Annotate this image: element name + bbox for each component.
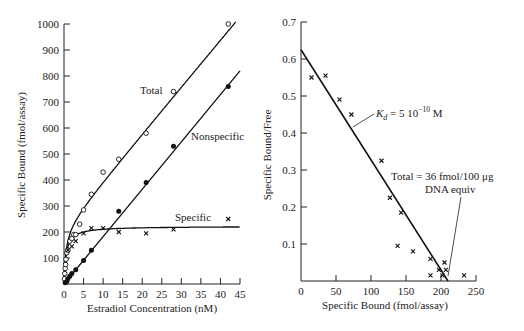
total-point — [73, 232, 78, 237]
nonspecific-point — [89, 248, 94, 253]
right-y-tick-label: 0.5 — [282, 90, 296, 102]
right-y-tick-label: 0.1 — [282, 238, 296, 250]
right-x-tick-label: 100 — [363, 285, 380, 297]
scatchard-point — [429, 273, 433, 277]
nonspecific-point — [226, 84, 231, 89]
right-y-tick-label: 0.7 — [282, 16, 296, 28]
left-data-points — [62, 22, 231, 286]
specific-point — [74, 239, 78, 243]
left-x-tick-label: 45 — [235, 288, 247, 300]
left-x-tick-label: 15 — [117, 288, 129, 300]
left-x-tick-label: 35 — [195, 288, 207, 300]
specific-curve — [64, 227, 240, 284]
left-curves — [64, 22, 240, 284]
left-y-tick-label: 200 — [43, 226, 60, 238]
specific-series-label: Specific — [175, 211, 211, 223]
right-y-tick-label: 0.4 — [282, 127, 296, 139]
kd-annotation: Kd = 5 10−10 M — [375, 105, 443, 122]
total-series-label: Total — [140, 84, 162, 96]
nonspecific-point — [81, 258, 86, 263]
right-y-tick-label: 0.2 — [282, 201, 296, 213]
left-x-tick-label: 0 — [61, 288, 67, 300]
scatchard-point — [411, 249, 415, 253]
left-axes — [64, 24, 240, 284]
right-tick-labels: 0501001502002500.10.20.30.40.50.60.7 — [282, 16, 485, 297]
right-y-tick-label: 0.3 — [282, 164, 296, 176]
scatchard-point — [429, 257, 433, 261]
left-x-tick-label: 5 — [81, 288, 87, 300]
right-x-tick-label: 200 — [433, 285, 450, 297]
scatchard-point — [380, 159, 384, 163]
scatchard-point — [399, 211, 403, 215]
left-y-tick-label: 1000 — [37, 18, 60, 30]
left-x-tick-label: 30 — [176, 288, 188, 300]
scatchard-chart: 0501001502002500.10.20.30.40.50.60.7 Spe… — [261, 16, 494, 312]
right-axes — [301, 22, 476, 281]
kd-leader-line — [353, 114, 374, 127]
right-x-tick-label: 50 — [331, 285, 343, 297]
total-point — [63, 262, 68, 267]
total-annotation-line2: DNA equiv — [425, 183, 476, 195]
left-x-tick-label: 40 — [215, 288, 227, 300]
scatchard-point — [388, 196, 392, 200]
left-y-tick-label: 500 — [43, 148, 60, 160]
total-annotation-line1: Total = 36 fmol/100 μg — [391, 170, 494, 182]
total-point — [64, 257, 69, 262]
total-leader-line — [448, 197, 461, 276]
left-y-tick-label: 800 — [43, 70, 60, 82]
total-point — [171, 89, 176, 94]
scatchard-fit-line — [301, 50, 448, 281]
right-x-axis-label: Specific Bound (fmol/assay) — [322, 299, 448, 312]
scatchard-point — [444, 268, 448, 272]
total-point — [81, 208, 86, 213]
left-y-tick-label: 600 — [43, 122, 60, 134]
left-y-tick-label: 100 — [43, 252, 60, 264]
nonspecific-point — [171, 144, 176, 149]
left-y-tick-label: 300 — [43, 200, 60, 212]
fit-line — [301, 50, 448, 281]
nonspecific-point — [144, 180, 149, 185]
nonspecific-series-label: Nonspecific — [191, 130, 244, 142]
left-y-tick-label: 400 — [43, 174, 60, 186]
specific-point — [70, 244, 74, 248]
left-x-tick-label: 20 — [137, 288, 149, 300]
nonspecific-point — [73, 267, 78, 272]
left-x-axis-label: Estradiol Concentration (nM) — [87, 302, 217, 315]
total-point — [77, 222, 82, 227]
right-y-tick-label: 0.6 — [282, 53, 296, 65]
total-point — [101, 170, 106, 175]
total-point — [89, 192, 94, 197]
scatchard-point — [462, 273, 466, 277]
specific-point — [117, 230, 121, 234]
left-x-tick-label: 10 — [98, 288, 110, 300]
scatchard-point — [324, 74, 328, 78]
left-x-tick-label: 25 — [156, 288, 168, 300]
nonspecific-point — [116, 209, 121, 214]
total-curve — [64, 22, 236, 284]
total-point — [226, 22, 231, 27]
specific-point — [144, 231, 148, 235]
scatchard-point — [349, 113, 353, 117]
nonspecific-point — [69, 271, 74, 276]
left-y-tick-label: 900 — [43, 44, 60, 56]
right-x-tick-label: 0 — [298, 285, 304, 297]
right-x-tick-label: 150 — [398, 285, 415, 297]
left-y-tick-label: 700 — [43, 96, 60, 108]
scatchard-point — [338, 98, 342, 102]
specific-point — [226, 217, 230, 221]
scatchard-point — [396, 244, 400, 248]
saturation-chart: 0510152025303540451002003004005006007008… — [15, 18, 246, 315]
specific-point — [89, 226, 93, 230]
right-x-tick-label: 250 — [468, 285, 485, 297]
scatchard-point — [310, 76, 314, 80]
total-point — [144, 131, 149, 136]
left-y-axis-label: Specific Bound (fmol/assay) — [15, 92, 28, 218]
scatchard-point — [443, 261, 447, 265]
total-point — [116, 157, 121, 162]
binding-charts: 0510152025303540451002003004005006007008… — [0, 0, 524, 331]
right-y-axis-label: Specific Bound/Free — [261, 110, 273, 201]
total-point — [62, 271, 67, 276]
